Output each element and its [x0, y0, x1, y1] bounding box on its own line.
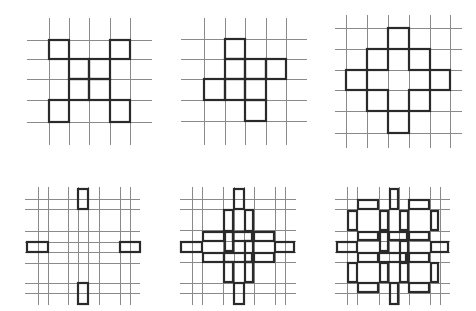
grid-panel-5 — [180, 187, 296, 305]
outlined-cell — [245, 262, 253, 282]
outlined-cell — [245, 79, 266, 100]
outlined-cell — [358, 253, 378, 262]
outlined-cell — [380, 211, 388, 230]
outlined-cell — [367, 49, 388, 70]
outlined-cell — [49, 100, 69, 122]
outlined-cell — [409, 49, 430, 70]
outlined-cell — [225, 79, 245, 100]
grid-panel-3 — [335, 15, 462, 148]
outlined-cell — [203, 232, 224, 241]
outlined-cell — [358, 232, 378, 240]
outlined-cell — [245, 100, 266, 121]
outlined-cell — [346, 70, 367, 90]
outlined-cell — [110, 40, 130, 59]
outlined-cell — [409, 90, 430, 111]
outlined-cell — [233, 232, 252, 241]
outlined-cell — [245, 59, 266, 79]
outlined-cell — [431, 242, 448, 252]
outlined-cell — [224, 210, 233, 231]
outlined-cell — [204, 79, 225, 100]
outlined-cell — [379, 253, 406, 262]
outlined-cell — [358, 200, 378, 209]
outlined-cell — [275, 242, 294, 252]
outlined-cell — [225, 39, 245, 59]
outlined-cell — [110, 100, 130, 122]
outlined-cell — [224, 262, 233, 282]
outlined-cell — [409, 200, 429, 209]
outlined-cell — [254, 253, 274, 262]
outlined-cell — [409, 232, 429, 240]
grid-panel-2 — [181, 18, 307, 145]
outlined-cell — [69, 79, 89, 100]
outlined-cell — [430, 70, 450, 90]
outlined-cell — [409, 283, 429, 292]
outlined-cell — [49, 40, 69, 59]
outlined-cell — [89, 79, 110, 100]
outlined-cell — [27, 242, 48, 252]
pattern-diagram — [0, 0, 476, 311]
outlined-cell — [225, 59, 245, 79]
outlined-cell — [224, 253, 252, 262]
outlined-cell — [389, 232, 407, 240]
grid-panel-4 — [25, 187, 140, 305]
outlined-cell — [69, 59, 89, 79]
outlined-cell — [380, 263, 388, 282]
outlined-cell — [400, 263, 408, 282]
outlined-cell — [266, 59, 286, 79]
outlined-cell — [388, 111, 409, 133]
outlined-cell — [89, 59, 110, 79]
grid-panel-1 — [27, 18, 152, 145]
outlined-cell — [348, 263, 357, 282]
outlined-cell — [254, 232, 274, 241]
outlined-cell — [400, 211, 408, 230]
outlined-cell — [431, 211, 438, 230]
outlined-cell — [409, 253, 429, 262]
outlined-cell — [348, 211, 357, 230]
outlined-cell — [388, 28, 409, 49]
outlined-cell — [367, 90, 388, 111]
outlined-cell — [181, 242, 202, 252]
outlined-cell — [358, 283, 378, 292]
outlined-cell — [431, 263, 438, 282]
grid-panel-6 — [335, 187, 450, 305]
outlined-cell — [203, 253, 224, 262]
outlined-cell — [245, 210, 253, 231]
